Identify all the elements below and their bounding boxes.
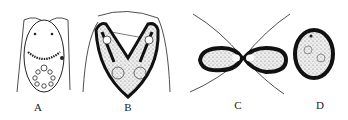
panel-c-label: C bbox=[234, 99, 241, 111]
panel-d-label: D bbox=[316, 99, 324, 111]
panel-b-cell bbox=[83, 11, 170, 97]
figure-drawing bbox=[0, 0, 348, 120]
panel-b-label: B bbox=[124, 101, 131, 113]
panel-a-label: A bbox=[34, 101, 42, 113]
figure: A B C D bbox=[0, 0, 348, 120]
panel-c-cells bbox=[190, 14, 290, 94]
panel-d-cyst bbox=[295, 30, 333, 78]
panel-a-cell bbox=[17, 18, 70, 92]
